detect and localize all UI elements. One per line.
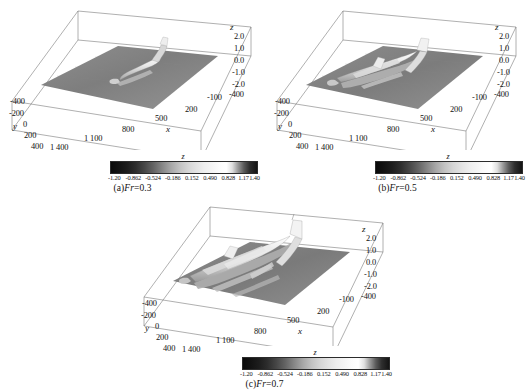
colorbar-gradient-c — [242, 357, 390, 370]
z-tick-3: -1.0 — [497, 68, 510, 77]
z-tick-0: 2.0 — [499, 32, 509, 41]
x-tick-3: 800 — [122, 125, 134, 134]
z-axis-corner-tick: -400 — [494, 90, 509, 99]
y-axis-label: y — [278, 121, 282, 131]
z-tick-4: -2.0 — [232, 80, 245, 89]
surface-plot-b: z 2.0 1.0 0.0 -1.0 -2.0 -400 -400 -200 y… — [265, 0, 530, 150]
z-tick-2: 0.0 — [234, 56, 244, 65]
caption-a-prefix: (a) — [113, 183, 124, 193]
y-tick-1: -200 — [9, 109, 24, 118]
cbar-tick-4: 0.152 — [185, 174, 199, 181]
y-tick-3: 200 — [156, 333, 168, 342]
y-tick-4: 400 — [296, 142, 308, 151]
x-tick-2: 500 — [155, 114, 167, 123]
cbar-tick-0: -1.20 — [240, 370, 253, 377]
x-tick-0: -100 — [339, 295, 354, 304]
z-tick-4: -2.0 — [497, 80, 510, 89]
x-tick-5: 1 400 — [315, 143, 333, 152]
caption-c-prefix: (c) — [245, 379, 256, 389]
colorbar-a: z -1.20 -0.862 -0.524 -0.186 0.152 0.490… — [110, 152, 258, 184]
z-axis-label: z — [230, 22, 234, 32]
z-tick-2: 0.0 — [499, 56, 509, 65]
cbar-tick-7: 1.17 — [503, 174, 514, 181]
y-tick-0: -400 — [275, 97, 290, 106]
z-axis-label: z — [362, 224, 366, 234]
cbar-tick-4: 0.152 — [450, 174, 464, 181]
y-tick-3: 200 — [289, 131, 301, 140]
x-axis-label: x — [166, 124, 170, 134]
x-tick-5: 1 400 — [50, 143, 68, 152]
z-tick-1: 1.0 — [234, 44, 244, 53]
colorbar-title-c: z — [242, 348, 388, 357]
water-surface-a — [41, 46, 218, 109]
cbar-tick-2: -0.524 — [277, 370, 293, 377]
cbar-tick-7: 1.17 — [370, 370, 381, 377]
surface-plot-a: z 2.0 1.0 0.0 -1.0 -2.0 -400 -400 -200 y… — [0, 0, 265, 150]
y-tick-4: 400 — [31, 142, 43, 151]
panel-a: z 2.0 1.0 0.0 -1.0 -2.0 -400 -400 -200 y… — [0, 0, 265, 196]
y-tick-2: 0 — [23, 120, 27, 129]
x-tick-4: 1 100 — [349, 134, 367, 143]
colorbar-title-a: z — [110, 152, 256, 161]
panel-c: z 2.0 1.0 0.0 -1.0 -2.0 -400 -400 -200 y… — [132, 190, 397, 392]
x-tick-2: 500 — [420, 114, 432, 123]
x-axis-label: x — [431, 124, 435, 134]
figure-container: z 2.0 1.0 0.0 -1.0 -2.0 -400 -400 -200 y… — [0, 0, 530, 392]
x-tick-4: 1 100 — [216, 336, 234, 345]
panel-caption-c: (c)Fr=0.7 — [132, 379, 397, 389]
x-tick-5: 1 400 — [182, 345, 200, 354]
z-axis-label: z — [495, 22, 499, 32]
surface-plot-c: z 2.0 1.0 0.0 -1.0 -2.0 -400 -400 -200 y… — [132, 196, 397, 346]
z-tick-3: -1.0 — [232, 68, 245, 77]
cbar-tick-8: 1.40 — [514, 174, 525, 181]
x-axis-label: x — [298, 326, 302, 336]
colorbar-title-b: z — [375, 152, 521, 161]
x-tick-1: 200 — [185, 105, 197, 114]
y-tick-2: 0 — [288, 120, 292, 129]
cbar-tick-6: 0.828 — [353, 370, 367, 377]
y-axis-label: y — [145, 323, 149, 333]
caption-b-value: =0.5 — [399, 183, 417, 193]
y-tick-3: 200 — [24, 131, 36, 140]
cbar-tick-7: 1.17 — [238, 174, 249, 181]
cbar-tick-2: -0.524 — [145, 174, 161, 181]
cbar-tick-6: 0.828 — [221, 174, 235, 181]
cbar-tick-4: 0.152 — [317, 370, 331, 377]
x-tick-0: -100 — [207, 93, 222, 102]
caption-c-symbol: Fr — [256, 379, 266, 389]
panel-b: z 2.0 1.0 0.0 -1.0 -2.0 -400 -400 -200 y… — [265, 0, 530, 196]
y-tick-4: 400 — [163, 344, 175, 353]
cbar-tick-5: 0.490 — [468, 174, 482, 181]
cbar-tick-0: -1.20 — [373, 174, 386, 181]
cbar-tick-3: -0.186 — [297, 370, 313, 377]
cbar-tick-8: 1.40 — [381, 370, 392, 377]
x-tick-4: 1 100 — [84, 134, 102, 143]
z-axis-corner-tick: -400 — [361, 292, 376, 301]
z-tick-1: 1.0 — [499, 44, 509, 53]
cbar-tick-5: 0.490 — [335, 370, 349, 377]
cbar-tick-2: -0.524 — [410, 174, 426, 181]
cbar-tick-0: -1.20 — [108, 174, 121, 181]
z-tick-3: -1.0 — [364, 270, 377, 279]
cbar-tick-5: 0.490 — [203, 174, 217, 181]
y-tick-0: -400 — [142, 299, 157, 308]
z-tick-1: 1.0 — [366, 246, 376, 255]
cbar-tick-1: -0.862 — [126, 174, 142, 181]
cbar-tick-3: -0.186 — [165, 174, 181, 181]
x-tick-0: -100 — [472, 93, 487, 102]
colorbar-c: z -1.20 -0.862 -0.524 -0.186 0.152 0.490… — [242, 348, 390, 380]
z-tick-2: 0.0 — [366, 258, 376, 267]
caption-c-value: =0.7 — [266, 379, 284, 389]
cbar-tick-8: 1.40 — [249, 174, 260, 181]
colorbar-gradient-b — [375, 161, 523, 174]
x-tick-3: 800 — [387, 125, 399, 134]
cbar-tick-6: 0.828 — [486, 174, 500, 181]
z-axis-corner-tick: -400 — [229, 90, 244, 99]
cbar-tick-1: -0.862 — [258, 370, 274, 377]
x-tick-1: 200 — [450, 105, 462, 114]
cbar-tick-3: -0.186 — [430, 174, 446, 181]
x-tick-2: 500 — [287, 316, 299, 325]
z-tick-0: 2.0 — [234, 32, 244, 41]
colorbar-b: z -1.20 -0.862 -0.524 -0.186 0.152 0.490… — [375, 152, 523, 184]
y-tick-1: -200 — [141, 311, 156, 320]
